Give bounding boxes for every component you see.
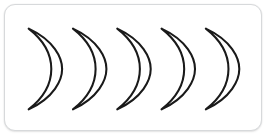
crescent-shapes-layer — [5, 5, 261, 130]
crescent-group — [29, 29, 240, 110]
crescent-shape — [73, 29, 106, 110]
rounded-white-card — [4, 4, 262, 131]
crescent-shape — [117, 29, 150, 110]
screenshot-canvas — [0, 0, 269, 136]
crescent-shape — [162, 29, 195, 110]
crescent-shape — [206, 29, 239, 110]
crescent-row-svg — [5, 5, 261, 130]
crescent-shape — [29, 29, 62, 110]
